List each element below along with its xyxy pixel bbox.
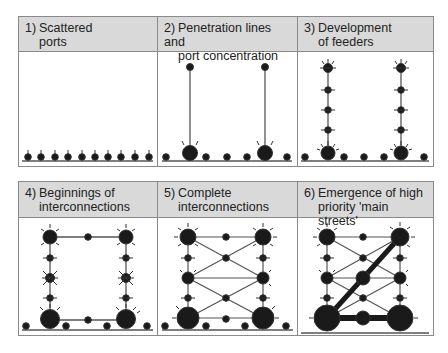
inland-hub — [393, 59, 409, 73]
hub-node — [390, 222, 415, 247]
minor-port — [104, 323, 111, 330]
major-port — [40, 304, 60, 329]
major-port — [309, 305, 340, 331]
minor-port — [242, 323, 249, 330]
link-node — [85, 317, 92, 324]
link-node — [360, 234, 367, 241]
minor-port — [381, 154, 388, 161]
feeder-node — [320, 295, 334, 302]
feeder-node — [256, 255, 270, 262]
panel-4-graphic — [22, 224, 153, 330]
minor-port — [284, 154, 291, 161]
minor-port — [163, 154, 170, 161]
minor-port — [203, 323, 210, 330]
minor-port — [341, 154, 348, 161]
regional-node — [319, 270, 335, 284]
crossing-node — [360, 295, 367, 302]
feeder-node — [119, 255, 133, 262]
major-port — [317, 141, 339, 160]
regional-node — [394, 270, 408, 286]
feeder-node — [394, 107, 408, 114]
feeder-node — [256, 295, 270, 302]
feeder-node — [181, 255, 195, 262]
minor-port — [63, 323, 70, 330]
minor-port — [302, 154, 309, 161]
scattered-port-nodes — [25, 150, 153, 160]
crossing-node — [360, 255, 367, 262]
feeder-node — [321, 127, 335, 134]
feeder-node — [320, 255, 334, 262]
interconnection-lines — [50, 237, 126, 320]
inland-node — [262, 64, 269, 71]
regional-node — [257, 270, 271, 286]
feeder-node — [43, 255, 57, 262]
major-port — [387, 305, 418, 331]
minor-port — [224, 154, 231, 161]
minor-port — [283, 323, 290, 330]
link-node — [223, 316, 230, 323]
panel-3-graphic — [301, 59, 429, 161]
feeder-node — [321, 87, 335, 94]
minor-port — [244, 154, 251, 161]
major-port — [116, 304, 140, 329]
hub-node — [253, 223, 277, 246]
feeder-node — [394, 87, 408, 94]
interconnection-lines — [188, 237, 263, 318]
minor-port — [203, 154, 210, 161]
link-node — [223, 234, 230, 241]
hub-node — [313, 223, 337, 246]
panel-6-graphic — [301, 222, 429, 333]
minor-port — [162, 323, 169, 330]
feeder-node — [43, 295, 57, 302]
minor-port — [144, 323, 151, 330]
major-port — [252, 306, 279, 329]
minor-port — [421, 154, 428, 161]
feeder-node — [393, 255, 407, 262]
regional-node — [180, 270, 196, 284]
coastal-hub-node — [356, 311, 370, 325]
crossing-node — [223, 255, 230, 262]
minor-port — [23, 323, 30, 330]
panel-2-graphic — [162, 64, 292, 162]
central-hub-node — [356, 271, 370, 285]
minor-port — [361, 154, 368, 161]
feeder-node — [321, 107, 335, 114]
panel-1-graphic — [22, 150, 153, 161]
network-diagram-graphics — [0, 0, 448, 353]
feeder-node — [119, 295, 133, 302]
hub-node — [174, 223, 198, 246]
cross-node — [118, 271, 134, 285]
link-node — [85, 234, 92, 241]
feeder-node — [394, 127, 408, 134]
crossing-node — [223, 295, 230, 302]
hub-node — [117, 224, 135, 245]
inland-hub — [320, 59, 336, 73]
inland-node — [187, 64, 194, 71]
hub-node — [41, 224, 59, 245]
cross-node — [42, 271, 58, 285]
major-port — [390, 141, 412, 160]
panel-5-graphic — [162, 223, 293, 330]
feeder-node — [393, 295, 407, 302]
feeder-node — [181, 295, 195, 302]
major-port — [172, 306, 199, 329]
